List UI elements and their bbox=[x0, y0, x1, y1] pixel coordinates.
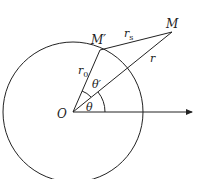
label-O: O bbox=[57, 107, 67, 121]
label-theta: θ bbox=[86, 101, 93, 114]
label-M: M bbox=[165, 17, 179, 31]
label-r: r bbox=[150, 52, 156, 65]
circle bbox=[3, 42, 143, 179]
label-M-prime: M′ bbox=[90, 33, 106, 47]
angle-arc-theta bbox=[98, 92, 105, 112]
label-rs: rs bbox=[124, 27, 133, 42]
geometry-diagram: O θ θ′ M′ M r0 rs r bbox=[0, 0, 199, 179]
label-r0: r0 bbox=[78, 64, 88, 79]
angle-arc-theta-prime bbox=[82, 91, 91, 97]
label-theta-prime: θ′ bbox=[92, 78, 102, 91]
